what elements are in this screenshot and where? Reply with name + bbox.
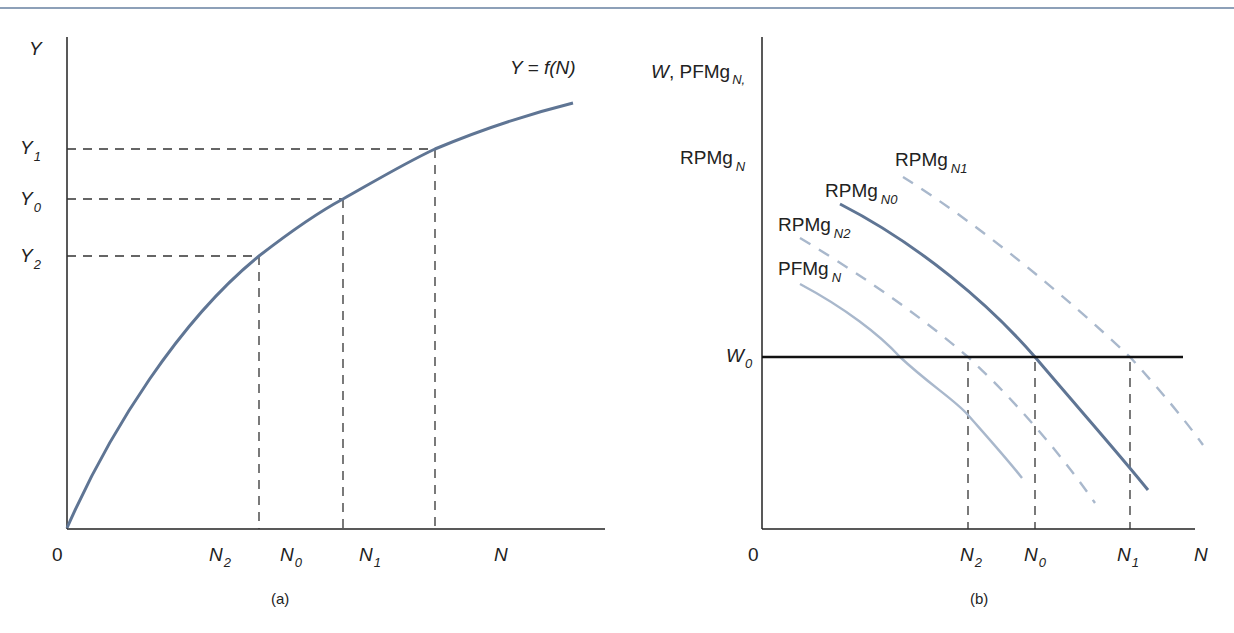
x-tick-labels-a: 0 N2 N0 N1 N	[52, 544, 508, 570]
rpmg-n0-curve	[840, 204, 1148, 490]
y-axis-label-a: Y	[29, 38, 43, 59]
svg-text:N0: N0	[1024, 544, 1047, 570]
production-curve	[67, 103, 573, 528]
panel-b: W, PFMgN, RPMgN W0 RPMgN1 RPMgN0 RPMgN2 …	[651, 37, 1208, 607]
x-tick-labels-b: 0 N2 N0 N1 N	[748, 544, 1208, 570]
guides-a	[67, 149, 435, 529]
wage-label-w0: W0	[726, 345, 753, 371]
y-axis-label-b-2: RPMgN	[680, 147, 746, 174]
svg-text:0: 0	[52, 544, 63, 565]
figure: Y Y = f(N) Y1 Y0 Y2 0 N2 N0 N1 N (a)	[0, 0, 1234, 633]
label-pfmg-n: PFMgN	[778, 258, 842, 285]
svg-text:N2: N2	[960, 544, 983, 570]
svg-text:N1: N1	[359, 544, 381, 570]
svg-text:0: 0	[748, 544, 759, 565]
svg-text:N: N	[494, 544, 508, 565]
svg-text:N1: N1	[1117, 544, 1139, 570]
rpmg-n1-curve	[903, 177, 1203, 445]
svg-text:N0: N0	[280, 544, 303, 570]
label-rpmg-n1: RPMgN1	[895, 149, 967, 176]
svg-text:Y1: Y1	[20, 137, 41, 164]
y-tick-labels-a: Y1 Y0 Y2	[20, 137, 42, 272]
y-axis-label-b-1: W, PFMgN,	[651, 61, 745, 87]
svg-text:N: N	[1194, 544, 1208, 565]
caption-a: (a)	[271, 590, 289, 607]
panel-a: Y Y = f(N) Y1 Y0 Y2 0 N2 N0 N1 N (a)	[20, 37, 605, 607]
svg-text:Y0: Y0	[20, 188, 42, 215]
rpmg-n2-curve	[800, 238, 1095, 503]
curve-label-a: Y = f(N)	[510, 57, 576, 78]
label-rpmg-n2: RPMgN2	[778, 214, 851, 241]
guides-b	[968, 362, 1130, 529]
svg-text:N2: N2	[209, 544, 232, 570]
caption-b: (b)	[970, 590, 988, 607]
svg-text:Y2: Y2	[20, 245, 42, 272]
label-rpmg-n0: RPMgN0	[825, 180, 898, 207]
